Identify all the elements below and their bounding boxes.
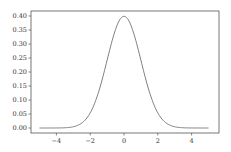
x-tick-label: 0 bbox=[122, 137, 126, 145]
y-tick-label: 0.40 bbox=[13, 12, 27, 20]
x-tick-label: −4 bbox=[52, 137, 62, 145]
chart: 0.000.050.100.150.200.250.300.350.40 −4−… bbox=[0, 0, 231, 152]
x-axis: −4−2024 bbox=[52, 133, 194, 145]
y-tick-label: 0.30 bbox=[13, 40, 27, 48]
y-tick-label: 0.25 bbox=[13, 54, 27, 62]
y-tick-label: 0.10 bbox=[13, 96, 27, 104]
y-tick-label: 0.15 bbox=[13, 82, 27, 90]
y-axis: 0.000.050.100.150.200.250.300.350.40 bbox=[13, 12, 31, 132]
y-tick-label: 0.00 bbox=[13, 124, 27, 132]
x-tick-label: 4 bbox=[190, 137, 194, 145]
x-tick-label: 2 bbox=[156, 137, 160, 145]
axes-frame bbox=[31, 11, 219, 133]
x-tick-label: −2 bbox=[85, 137, 95, 145]
y-tick-label: 0.05 bbox=[13, 110, 27, 118]
y-tick-label: 0.20 bbox=[13, 68, 27, 76]
y-tick-label: 0.35 bbox=[13, 26, 27, 34]
